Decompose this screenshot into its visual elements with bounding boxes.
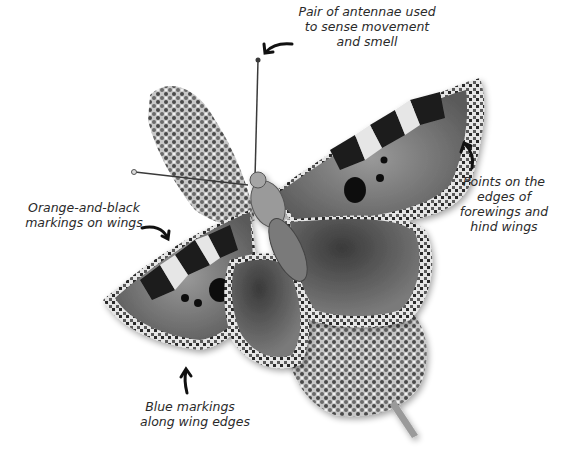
antenna-tip-left xyxy=(132,170,137,175)
label-wing-markings: Orange-and-black markings on wings xyxy=(20,200,148,230)
label-line: along wing edges xyxy=(140,414,240,429)
label-line: forewings and xyxy=(448,204,560,219)
label-wing-points: Points on the edges of forewings and hin… xyxy=(448,174,560,234)
label-line: markings on wings xyxy=(20,215,148,230)
label-antennae: Pair of antennae used to sense movement … xyxy=(292,4,442,49)
label-line: Blue markings xyxy=(140,399,240,414)
label-line: Orange-and-black xyxy=(20,200,148,215)
flower-head-upper xyxy=(148,86,255,225)
antenna-tip-upper xyxy=(256,58,261,63)
label-line: edges of xyxy=(448,189,560,204)
arrow-antennae-icon xyxy=(264,44,292,53)
label-line: hind wings xyxy=(448,219,560,234)
label-line: Points on the xyxy=(448,174,560,189)
label-blue-markings: Blue markings along wing edges xyxy=(140,399,240,429)
label-line: to sense movement xyxy=(292,19,442,34)
arrow-blue-icon xyxy=(181,369,191,393)
label-line: Pair of antennae used xyxy=(292,4,442,19)
label-line: and smell xyxy=(292,34,442,49)
flower-stem xyxy=(390,400,418,438)
